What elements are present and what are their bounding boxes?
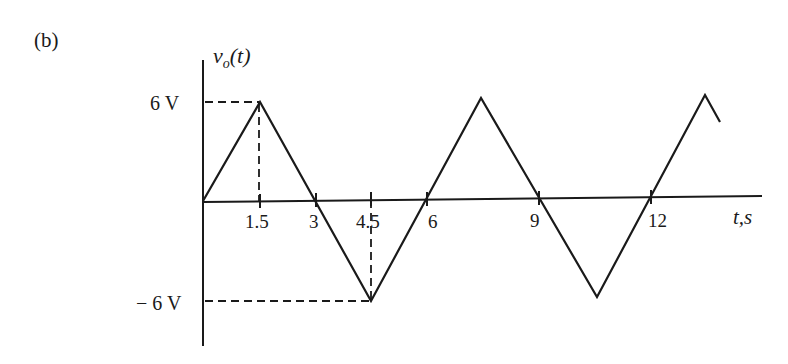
x-axis xyxy=(203,196,762,202)
x-tick-9: 9 xyxy=(530,210,540,231)
x-tick-1-5: 1.5 xyxy=(245,211,269,232)
x-axis-label: t,s xyxy=(733,205,752,229)
x-tick-6: 6 xyxy=(428,211,438,232)
x-tick-12: 12 xyxy=(648,210,667,231)
y-tick-minus-6v: − 6 V xyxy=(136,292,182,314)
x-tick-4-5: 4.5 xyxy=(356,211,380,232)
y-tick-6v: 6 V xyxy=(150,92,180,114)
y-axis-label: vo(t) xyxy=(213,43,251,71)
waveform-figure: (b) vo(t) 6 V − 6 V 1.5 3 4.5 6 9 12 t,s xyxy=(0,0,788,364)
x-tick-3: 3 xyxy=(309,211,319,232)
panel-label: (b) xyxy=(34,28,59,52)
